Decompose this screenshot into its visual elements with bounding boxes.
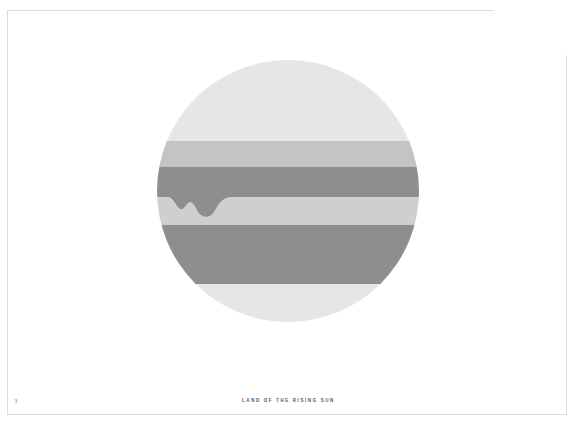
rising-sun-illustration — [157, 60, 419, 322]
page-frame-right — [566, 55, 567, 415]
band-top-pale — [157, 60, 419, 141]
band-lower-dark — [157, 225, 419, 284]
band-upper-dark — [157, 167, 419, 197]
page-caption: LAND OF THE RISING SUN — [0, 398, 577, 403]
page-frame-left — [7, 10, 8, 415]
band-bottom-pale — [157, 284, 419, 322]
band-upper-mid — [157, 141, 419, 167]
page-frame-bottom — [7, 414, 567, 415]
page-frame-top — [7, 10, 494, 11]
page-number: 3 — [14, 397, 18, 405]
